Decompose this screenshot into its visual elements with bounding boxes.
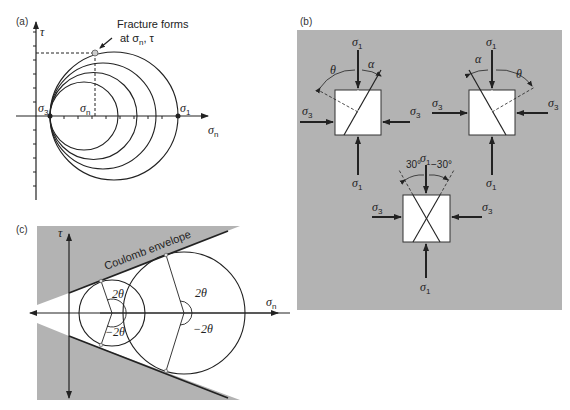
panel-b-stress-blocks: (b) σ1 σ1 σ3 θ α bbox=[297, 16, 562, 310]
figure-canvas: (a) bbox=[0, 0, 570, 410]
fracture-point bbox=[92, 50, 98, 56]
sigma3-label: σ3 bbox=[38, 101, 49, 117]
theta-label: θ bbox=[330, 63, 336, 77]
annotation-text-2: at σn, τ bbox=[120, 32, 155, 47]
panel-c-label: (c) bbox=[16, 224, 28, 235]
tau-axis-label: τ bbox=[40, 25, 45, 39]
angle-30-label: 30° bbox=[406, 159, 421, 170]
annotation-arrow bbox=[100, 38, 112, 48]
alpha-label: α bbox=[368, 57, 375, 71]
block-left-square bbox=[335, 90, 381, 135]
sigma-n-axis-label: σn bbox=[266, 295, 276, 311]
block-right-square bbox=[469, 90, 515, 135]
fracture-point-guides bbox=[36, 53, 95, 116]
angle-2theta-small: 2θ bbox=[112, 287, 124, 301]
panel-b-label: (b) bbox=[300, 16, 312, 27]
panel-a-mohr-circles: (a) bbox=[16, 16, 218, 200]
theta-label: θ bbox=[516, 67, 522, 81]
panel-a-label: (a) bbox=[16, 16, 28, 27]
angle-2theta-large: 2θ bbox=[195, 286, 207, 300]
tau-axis-label: τ bbox=[58, 226, 63, 240]
panel-b-background bbox=[297, 30, 562, 310]
alpha-label: α bbox=[475, 52, 482, 66]
sigma1-label: σ1 bbox=[180, 101, 191, 117]
angle-neg30-label: −30° bbox=[431, 159, 452, 170]
angle-neg2theta-large: −2θ bbox=[193, 322, 213, 336]
sigma-n-label: σn bbox=[80, 101, 90, 117]
panel-c-coulomb: (c) 2θ −2θ 2θ −2θ Coul bbox=[16, 224, 290, 400]
angle-neg2theta-small: −2θ bbox=[105, 325, 125, 339]
annotation-text: Fracture forms bbox=[117, 18, 189, 30]
sigma-n-axis-label: σn bbox=[208, 123, 218, 139]
